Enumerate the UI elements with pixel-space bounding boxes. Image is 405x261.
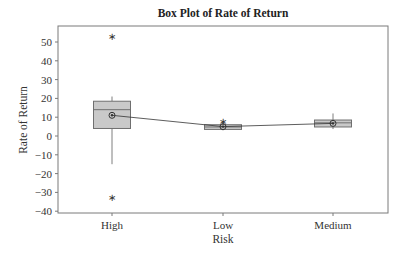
y-tick-label: 50 <box>41 36 53 48</box>
y-tick-label: 10 <box>41 111 53 123</box>
box-plot-chart: Box Plot of Rate of Return 50403020100−1… <box>0 0 405 261</box>
y-tick-label: −30 <box>35 186 53 198</box>
chart-title: Box Plot of Rate of Return <box>158 7 289 19</box>
x-axis-label: Risk <box>212 233 233 245</box>
y-tick-label: 30 <box>41 74 53 86</box>
outlier-asterisk: ∗ <box>108 192 116 203</box>
y-tick-label: 20 <box>41 92 53 104</box>
mean-dot <box>111 114 113 116</box>
y-tick-label: 0 <box>47 130 53 142</box>
x-tick-label-high: High <box>101 219 124 231</box>
x-tick-label-medium: Medium <box>314 219 352 231</box>
y-tick-label: −10 <box>35 149 53 161</box>
mean-dot <box>332 122 334 124</box>
mean-dot <box>222 125 224 127</box>
x-axis: HighLowMedium <box>101 213 352 231</box>
outlier-asterisk: ∗ <box>108 31 116 42</box>
x-tick-label-low: Low <box>213 219 233 231</box>
y-tick-label: −40 <box>35 205 53 217</box>
y-axis-label: Rate of Return <box>17 86 29 154</box>
y-tick-label: −20 <box>35 168 53 180</box>
y-axis: 50403020100−10−20−30−40 <box>35 36 58 217</box>
y-tick-label: 40 <box>41 55 53 67</box>
